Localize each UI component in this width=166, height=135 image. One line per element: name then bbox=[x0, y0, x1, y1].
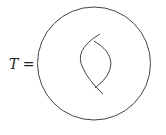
torus-outer-circle bbox=[38, 7, 151, 120]
torus-hole-left-arc bbox=[80, 34, 103, 94]
torus-diagram bbox=[0, 0, 166, 135]
torus-hole-right-arc bbox=[94, 41, 111, 88]
